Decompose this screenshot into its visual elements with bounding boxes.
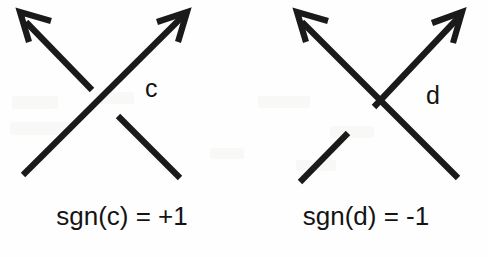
under-strand-ne-segment (374, 18, 458, 107)
arrowhead-northwest (20, 12, 51, 42)
sign-caption-c: sgn(c) = +1 (0, 203, 244, 229)
positive-crossing-panel: c sgn(c) = +1 (0, 0, 244, 257)
crossing-label-d: d (426, 83, 440, 108)
arrowhead-northwest (297, 12, 328, 42)
under-strand-sw-segment (300, 133, 348, 182)
under-strand-nw-segment (26, 22, 92, 90)
negative-crossing-panel: d sgn(d) = -1 (244, 0, 488, 257)
crossing-sign-figure: c sgn(c) = +1 d sgn(d) = -1 (0, 0, 488, 257)
negative-crossing-diagram (244, 0, 488, 200)
positive-crossing-diagram (0, 0, 244, 200)
sign-caption-d: sgn(d) = -1 (244, 203, 488, 229)
crossing-label-c: c (145, 76, 158, 101)
under-strand-se-segment (118, 116, 180, 178)
